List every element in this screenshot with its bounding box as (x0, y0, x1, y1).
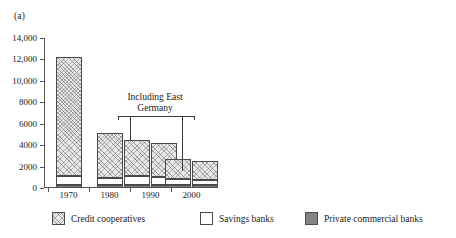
annotation-bracket-segment (118, 116, 119, 120)
y-axis-tick-label: 2000 (19, 162, 37, 172)
y-axis-tick (40, 145, 44, 146)
bar-segment-coop (97, 133, 123, 178)
legend-swatch-private-commercial-banks-icon (305, 212, 318, 225)
legend-item-private-commercial-banks: Private commercial banks (305, 212, 423, 225)
bar-1970 (56, 57, 82, 188)
bar-segment-private (192, 185, 218, 188)
bar-segment-private (165, 185, 191, 188)
x-axis-label-1970: 1970 (60, 190, 78, 200)
x-axis-label-2000: 2000 (183, 190, 201, 200)
x-axis-label-1980: 1980 (101, 190, 119, 200)
y-axis-tick (40, 124, 44, 125)
y-axis-tick-label: 14,000 (12, 33, 37, 43)
including-east-germany-annotation: Including EastGermany (112, 92, 198, 113)
legend-swatch-savings-banks-icon (200, 212, 213, 225)
y-axis-tick (40, 188, 44, 189)
bar-segment-coop (165, 159, 191, 179)
y-axis-tick (40, 102, 44, 103)
x-axis-tick (171, 188, 172, 192)
legend-label-savings-banks: Savings banks (219, 214, 274, 224)
legend-item-credit-cooperatives: Credit cooperatives (52, 212, 145, 225)
y-axis-tick (40, 38, 44, 39)
y-axis-tick (40, 59, 44, 60)
annotation-line-2: Germany (112, 103, 198, 114)
legend-label-credit-cooperatives: Credit cooperatives (71, 214, 145, 224)
annotation-bracket-segment (182, 116, 183, 171)
chart-panel-b: (b) 010,00020,00030,00040,00050,00019701… (228, 0, 456, 205)
panel-a-label: (a) (14, 11, 25, 21)
bar-segment-coop (124, 140, 150, 176)
bar-segment-savings (124, 176, 150, 185)
bar-segment-savings (192, 180, 218, 186)
bar-segment-private (97, 185, 123, 188)
annotation-bracket-segment (130, 116, 131, 141)
bar-segment-savings (165, 179, 191, 185)
bar-2000 (165, 159, 191, 188)
annotation-bracket-segment (194, 116, 195, 120)
x-axis-tick (48, 188, 49, 192)
x-axis-tick (89, 188, 90, 192)
y-axis-tick (40, 81, 44, 82)
legend-item-savings-banks: Savings banks (200, 212, 274, 225)
y-axis-tick-label: 10,000 (12, 76, 37, 86)
bar-segment-private (124, 185, 150, 188)
x-axis-label-1990: 1990 (142, 190, 160, 200)
legend-label-private-commercial-banks: Private commercial banks (324, 214, 423, 224)
x-axis-tick (130, 188, 131, 192)
bar-1990 (124, 140, 150, 188)
chart-legend: Credit cooperatives Savings banks Privat… (0, 206, 456, 234)
bar-2000-including-east (192, 161, 218, 188)
bar-segment-savings (97, 178, 123, 185)
bar-segment-coop (192, 161, 218, 179)
bar-segment-private (56, 185, 82, 188)
legend-swatch-credit-cooperatives-icon (52, 212, 65, 225)
bar-segment-coop (56, 57, 82, 176)
bar-1980 (97, 133, 123, 188)
y-axis-tick-label: 8000 (19, 97, 37, 107)
y-axis-tick-label: 4000 (19, 140, 37, 150)
y-axis-tick-label: 6000 (19, 119, 37, 129)
chart-panel-a: (a) 0200040006000800010,00012,00014,0001… (0, 0, 228, 205)
bar-segment-savings (56, 176, 82, 185)
figure-root: (a) 0200040006000800010,00012,00014,0001… (0, 0, 456, 238)
y-axis-line (44, 38, 45, 188)
y-axis-tick (40, 167, 44, 168)
annotation-line-1: Including East (112, 92, 198, 103)
y-axis-tick-label: 12,000 (12, 54, 37, 64)
y-axis-tick-label: 0 (33, 183, 38, 193)
